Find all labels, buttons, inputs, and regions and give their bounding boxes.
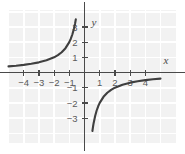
y-tick-label: −3 bbox=[67, 113, 78, 124]
y-tick-label: −2 bbox=[67, 98, 78, 109]
y-tick-label: 1 bbox=[72, 52, 77, 63]
x-tick-label: −3 bbox=[33, 77, 44, 88]
x-tick-label: 1 bbox=[97, 77, 102, 88]
y-tick-label: 2 bbox=[72, 37, 77, 48]
coordinate-plane-graph: −4−3−2−11234−3−2−1123 x y bbox=[0, 0, 185, 154]
x-tick-label: 4 bbox=[143, 77, 148, 88]
graph-figure: −4−3−2−11234−3−2−1123 x y bbox=[0, 0, 185, 154]
x-tick-label: −4 bbox=[18, 77, 29, 88]
x-tick-label: −2 bbox=[49, 77, 60, 88]
y-axis-label: y bbox=[91, 16, 97, 28]
y-tick-label: −1 bbox=[67, 82, 78, 93]
x-axis-label: x bbox=[163, 54, 169, 66]
